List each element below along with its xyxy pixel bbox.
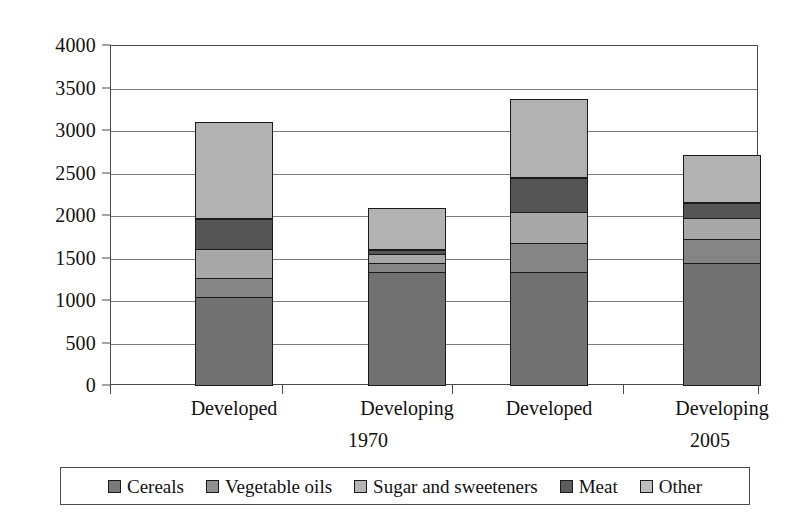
- x-tick-mark: [452, 385, 453, 394]
- bar-stack[interactable]: [510, 99, 588, 385]
- legend-item[interactable]: Vegetable oils: [206, 477, 332, 496]
- legend-label: Other: [659, 477, 702, 496]
- bar-segment[interactable]: [368, 253, 446, 264]
- bar-segment[interactable]: [510, 99, 588, 178]
- legend-swatch-icon: [206, 480, 219, 493]
- bar-segment[interactable]: [683, 218, 761, 240]
- bar-segment[interactable]: [510, 272, 588, 386]
- bar-segment[interactable]: [195, 297, 273, 386]
- x-category-label: Developing: [360, 397, 453, 420]
- x-period-label: 2005: [690, 429, 730, 452]
- legend-item[interactable]: Other: [640, 477, 702, 496]
- y-tick-label: 3000: [55, 120, 96, 140]
- legend-label: Meat: [579, 477, 618, 496]
- y-tick-label: 3500: [55, 78, 96, 98]
- legend-item[interactable]: Meat: [560, 477, 618, 496]
- bar-segment[interactable]: [683, 263, 761, 386]
- legend-label: Vegetable oils: [225, 477, 332, 496]
- bar-stack[interactable]: [683, 155, 761, 385]
- legend-item[interactable]: Cereals: [108, 477, 184, 496]
- y-tick-label: 0: [86, 375, 96, 395]
- bar-segment[interactable]: [683, 239, 761, 265]
- x-category-label: Developed: [191, 397, 278, 420]
- legend-swatch-icon: [560, 480, 573, 493]
- y-tick-label: 1000: [55, 290, 96, 310]
- bar-segment[interactable]: [510, 178, 588, 213]
- legend-item[interactable]: Sugar and sweeteners: [354, 477, 538, 496]
- legend-swatch-icon: [354, 480, 367, 493]
- bar-segment[interactable]: [368, 250, 446, 255]
- x-category-label: Developing: [675, 397, 768, 420]
- y-tick-label: 1500: [55, 248, 96, 268]
- x-tick-mark: [623, 385, 624, 394]
- bar-segment[interactable]: [368, 271, 446, 386]
- y-tick-label: 2000: [55, 205, 96, 225]
- bar-segment[interactable]: [195, 122, 273, 219]
- gridline: [111, 89, 757, 90]
- x-tick-mark: [110, 385, 111, 394]
- bar-segment[interactable]: [510, 212, 588, 244]
- y-tick-label: 500: [65, 333, 96, 353]
- x-axis: DevelopedDevelopingDevelopedDeveloping19…: [110, 385, 758, 455]
- x-period-label: 1970: [348, 429, 388, 452]
- x-category-label: Developed: [506, 397, 593, 420]
- bar-stack[interactable]: [368, 208, 446, 385]
- y-tick-label: 2500: [55, 163, 96, 183]
- bar-segment[interactable]: [195, 219, 273, 250]
- x-tick-mark: [282, 385, 283, 394]
- bar-segment[interactable]: [683, 203, 761, 219]
- bar-segment[interactable]: [368, 208, 446, 250]
- stacked-bar-chart-figure: 05001000150020002500300035004000 Develop…: [0, 0, 800, 531]
- bar-stack[interactable]: [195, 122, 273, 385]
- legend-swatch-icon: [640, 480, 653, 493]
- legend-swatch-icon: [108, 480, 121, 493]
- y-axis: 05001000150020002500300035004000: [0, 45, 104, 385]
- bar-segment[interactable]: [510, 243, 588, 274]
- legend-label: Sugar and sweeteners: [373, 477, 538, 496]
- bar-segment[interactable]: [683, 155, 761, 203]
- x-tick-mark: [758, 385, 759, 394]
- chart-legend: CerealsVegetable oilsSugar and sweetener…: [60, 467, 750, 505]
- bar-segment[interactable]: [195, 278, 273, 298]
- y-tick-label: 4000: [55, 35, 96, 55]
- legend-label: Cereals: [127, 477, 184, 496]
- bar-segment[interactable]: [368, 263, 446, 272]
- bar-segment[interactable]: [195, 249, 273, 279]
